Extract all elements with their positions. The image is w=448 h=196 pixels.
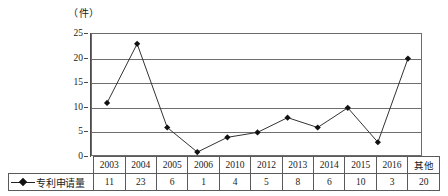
table-value-2003: 11	[94, 174, 125, 191]
data-point-2003	[104, 100, 110, 106]
y-tick-mark-15	[84, 82, 88, 83]
table-header-2010: 2010	[219, 157, 250, 174]
table-value-2005: 6	[156, 174, 187, 191]
data-point-2013	[284, 115, 290, 121]
table-value-2013: 8	[282, 174, 313, 191]
table-header-2013: 2013	[282, 157, 313, 174]
table-value-2010: 4	[219, 174, 250, 191]
legend-entry-patent-applications: 专利申请量	[9, 174, 94, 191]
y-tick-label-25: 25	[74, 28, 84, 38]
series-line	[107, 44, 408, 152]
table-header-2004: 2004	[125, 157, 156, 174]
patent-application-line-chart-figure: （件） 0510152025 2003200420052006201020122…	[0, 0, 448, 196]
table-header-2014: 2014	[314, 157, 345, 174]
y-tick-mark-10	[84, 107, 88, 108]
table-value-其他: 20	[408, 174, 440, 191]
table-header-2005: 2005	[156, 157, 187, 174]
data-table: 2003200420052006201020122013201420152016…	[8, 156, 440, 191]
table-header-2003: 2003	[94, 157, 125, 174]
data-point-2010	[224, 134, 230, 140]
plot-area	[91, 33, 422, 156]
table-header-2012: 2012	[251, 157, 282, 174]
data-point-2004	[134, 41, 140, 47]
table-corner-blank	[9, 157, 94, 174]
y-axis-unit-label: （件）	[68, 5, 100, 20]
y-tick-mark-25	[84, 33, 88, 34]
legend-label: 专利申请量	[36, 175, 85, 190]
y-tick-mark-20	[84, 58, 88, 59]
table-header-其他: 其他	[408, 157, 440, 174]
table-value-2004: 23	[125, 174, 156, 191]
table-row-categories: 2003200420052006201020122013201420152016…	[9, 157, 440, 174]
table-header-2006: 2006	[188, 157, 219, 174]
table-value-2014: 6	[314, 174, 345, 191]
y-tick-label-10: 10	[74, 102, 84, 112]
table-value-2006: 1	[188, 174, 219, 191]
table-value-2016: 3	[376, 174, 407, 191]
table-header-2015: 2015	[345, 157, 376, 174]
table-row-values: 专利申请量 112361458610320	[9, 174, 440, 191]
data-point-2012	[254, 129, 260, 135]
y-tick-mark-5	[84, 131, 88, 132]
y-tick-label-5: 5	[78, 126, 83, 136]
table-header-2016: 2016	[376, 157, 407, 174]
data-point-2014	[315, 124, 321, 130]
diamond-marker-icon	[11, 178, 35, 187]
y-axis-tick-labels: 0510152025	[58, 26, 88, 162]
series-line-patent-applications	[92, 34, 423, 157]
table-value-2012: 5	[251, 174, 282, 191]
table-value-2015: 10	[345, 174, 376, 191]
data-point-其他	[405, 56, 411, 62]
y-tick-label-15: 15	[74, 77, 84, 87]
y-tick-label-20: 20	[74, 53, 84, 63]
